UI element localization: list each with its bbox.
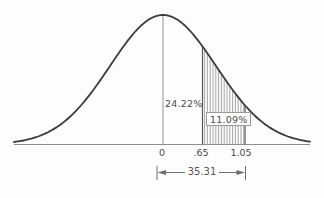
arrowhead-left-icon (158, 170, 167, 175)
x-tick-65: .65 (191, 147, 211, 158)
region-hatched-area-label: 11.09% (206, 112, 251, 126)
x-tick-0: 0 (154, 147, 170, 158)
arrowhead-right-icon (237, 170, 246, 175)
normal-curve-figure: 24.22% 11.09% 0 .65 1.05 35.31 (0, 0, 324, 198)
region-left-area-label: 24.22% (165, 98, 202, 109)
bell-curve (14, 15, 310, 142)
distribution-plot (0, 0, 324, 198)
x-tick-105: 1.05 (228, 147, 254, 158)
dimension-total-label: 35.31 (186, 166, 218, 177)
